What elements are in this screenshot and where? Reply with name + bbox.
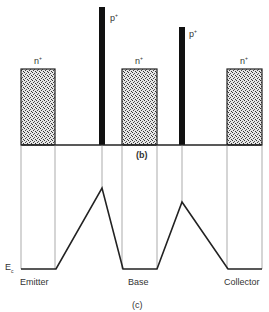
label-n-collector: n+ [240,56,248,66]
n-collector-block [227,69,262,145]
conduction-band-edge [21,188,262,269]
label-p-left: p+ [110,13,118,23]
label-collector: Collector [224,278,260,287]
region-guides [21,145,262,269]
label-base: Base [128,278,149,287]
caption-c: (c) [132,301,143,310]
p-spike-right [179,27,185,145]
n-base-block [122,69,157,145]
p-spike-left [99,7,105,145]
caption-b: (b) [136,151,148,160]
label-emitter: Emitter [20,278,49,287]
label-p-right: p+ [189,29,197,39]
label-n-base: n+ [135,56,143,66]
label-n-emitter: n+ [34,56,42,66]
n-emitter-block [21,69,55,145]
doping-profile [21,7,262,145]
label-ec: Ec [5,263,14,274]
diagram-canvas [0,0,269,312]
